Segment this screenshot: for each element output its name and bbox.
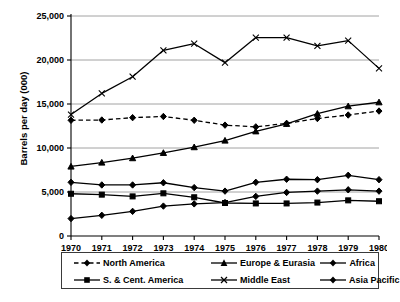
x-tick-label: 1972 <box>123 243 143 253</box>
data-point <box>68 117 74 123</box>
legend-swatch-north-america <box>74 257 100 269</box>
legend-swatch-europe-eurasia <box>211 257 237 269</box>
data-point <box>191 184 197 190</box>
data-point <box>253 193 259 199</box>
data-point <box>314 188 320 194</box>
plot-area: 05,00010,00015,00020,00025,0001970197119… <box>0 0 387 252</box>
data-point <box>99 212 105 218</box>
series-line-europe-eurasia <box>71 102 379 166</box>
legend-item-africa[interactable]: Africa <box>320 257 378 269</box>
x-tick-label: 1979 <box>338 243 358 253</box>
legend-swatch-middle-east <box>211 274 237 286</box>
legend-row: North America Europe & Eurasia Africa <box>62 254 378 272</box>
data-point <box>160 113 166 119</box>
x-tick-label: 1977 <box>277 243 297 253</box>
chart-legend: North America Europe & Eurasia Africa <box>61 252 379 289</box>
data-point <box>192 195 197 200</box>
data-point <box>160 180 166 186</box>
caption-remnant <box>44 293 274 300</box>
data-point <box>99 192 104 197</box>
data-point <box>130 194 135 199</box>
legend-label: Middle East <box>240 275 290 286</box>
x-tick-label: 1971 <box>92 243 112 253</box>
x-tick-label: 1976 <box>246 243 266 253</box>
data-point <box>376 188 382 194</box>
data-point <box>314 176 320 182</box>
x-tick-label: 1973 <box>153 243 173 253</box>
data-point <box>69 191 74 196</box>
y-tick-label: 25,000 <box>36 11 64 21</box>
data-point <box>377 199 382 204</box>
data-point <box>68 215 74 221</box>
legend-label: Europe & Eurasia <box>240 258 315 269</box>
y-tick-label: 10,000 <box>36 143 64 153</box>
x-tick-label: 1980 <box>369 243 387 253</box>
legend-label: S. & Cent. America <box>103 275 183 286</box>
y-tick-label: 5,000 <box>41 187 64 197</box>
data-point <box>68 179 74 185</box>
legend-swatch-africa <box>320 257 346 269</box>
legend-item-middle-east[interactable]: Middle East <box>211 274 320 286</box>
data-point <box>345 172 351 178</box>
data-point <box>130 182 136 188</box>
y-tick-label: 20,000 <box>36 55 64 65</box>
legend-row: S. & Cent. America Middle East Asia Paci… <box>62 271 378 289</box>
data-point <box>315 200 320 205</box>
legend-label: North America <box>103 258 165 269</box>
data-point <box>253 179 259 185</box>
data-point <box>376 108 382 114</box>
data-point <box>130 114 136 120</box>
data-point <box>191 117 197 123</box>
y-tick-label: 0 <box>59 231 64 241</box>
data-point <box>161 191 166 196</box>
legend-label: Africa <box>349 258 375 269</box>
legend-label: Asia Pacific <box>349 275 400 286</box>
data-point <box>191 201 197 207</box>
legend-swatch-s-cent-america <box>74 274 100 286</box>
data-point <box>376 176 382 182</box>
x-tick-label: 1970 <box>61 243 81 253</box>
data-point <box>160 203 166 209</box>
x-tick-label: 1975 <box>215 243 235 253</box>
data-point <box>284 201 289 206</box>
x-tick-label: 1978 <box>307 243 327 253</box>
legend-item-north-america[interactable]: North America <box>62 257 211 269</box>
data-point <box>345 112 351 118</box>
data-point <box>222 122 228 128</box>
data-point <box>346 198 351 203</box>
series-line-middle-east <box>71 38 379 115</box>
data-point <box>130 208 136 214</box>
data-point <box>99 117 105 123</box>
data-point <box>284 176 290 182</box>
y-tick-label: 15,000 <box>36 99 64 109</box>
data-point <box>99 182 105 188</box>
data-point <box>284 189 290 195</box>
legend-item-s-cent-america[interactable]: S. & Cent. America <box>62 274 211 286</box>
legend-item-asia-pacific[interactable]: Asia Pacific <box>320 274 378 286</box>
data-point <box>222 188 228 194</box>
legend-item-europe-eurasia[interactable]: Europe & Eurasia <box>211 257 320 269</box>
legend-swatch-asia-pacific <box>320 274 346 286</box>
data-point <box>253 201 258 206</box>
x-tick-label: 1974 <box>184 243 204 253</box>
